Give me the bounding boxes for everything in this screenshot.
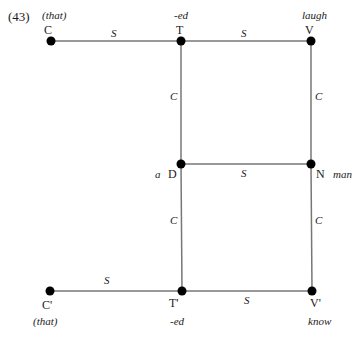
word-c: (that) [42,10,66,21]
edge-label-c-t: S [111,28,117,39]
node-label-c2: C' [42,299,52,311]
edge-n-v2 [311,164,312,291]
edge-label-v-n: C [315,91,322,102]
edge-label-d-t2: C [170,215,177,226]
edge-label-c2-t2: S [104,275,110,286]
node-label-t: T [176,24,183,36]
graph-canvas [0,0,360,339]
edge-d-t2 [181,164,182,291]
node-label-v2: V' [310,297,321,309]
word-v: laugh [302,10,327,21]
edge-label-t-d: C [170,91,177,102]
word-d: a [155,169,161,180]
example-number: (43) [8,10,30,23]
node-label-d: D [168,168,177,180]
word-c2: (that) [33,316,57,327]
word-t: -ed [174,10,188,21]
node-label-n: N [316,168,325,180]
word-t2: -ed [170,316,184,327]
node-label-v: V [305,24,314,36]
node-t-dot [177,37,186,46]
edge-label-d-n: S [241,168,247,179]
node-v-dot [307,37,316,46]
edge-label-n-v2: C [315,215,322,226]
node-label-c: C [44,24,52,36]
node-d-dot [177,160,186,169]
word-v2: know [308,316,331,327]
node-label-t2: T' [169,297,179,309]
node-t2-dot [178,287,187,296]
node-n-dot [307,160,316,169]
node-v2-dot [308,287,317,296]
edge-label-t-v: S [241,28,247,39]
edge-label-t2-v2: S [244,295,250,306]
word-n: man [333,169,352,180]
node-c-dot [47,37,56,46]
node-c2-dot [46,287,55,296]
